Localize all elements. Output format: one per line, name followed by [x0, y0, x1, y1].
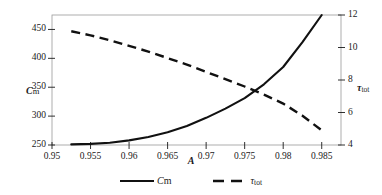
x-axis-tick-label: 0.98: [275, 152, 292, 162]
right-axis-tick-label: 6: [348, 108, 353, 118]
series-line-tau-tot: [71, 31, 321, 130]
left-axis-tick-label: 400: [18, 54, 46, 64]
legend-swatch-dashed: [213, 176, 247, 186]
right-axis-ticks: [338, 15, 345, 145]
legend-label-tau-tot: τtot: [250, 176, 262, 186]
x-axis-title: A: [188, 156, 195, 166]
x-axis-tick-label: 0.96: [121, 152, 138, 162]
x-axis-tick-label: 0.965: [157, 152, 178, 162]
x-axis-tick-label: 0.97: [198, 152, 215, 162]
right-axis-title-subscript: tot: [361, 85, 369, 94]
right-axis-tick-label: 8: [348, 75, 353, 85]
left-axis-title: Cm: [26, 86, 39, 96]
chart-legend: Cm τtot: [0, 168, 382, 194]
left-axis-tick-label: 250: [18, 140, 46, 150]
series-line-cm: [71, 15, 321, 144]
left-axis-title-subscript: m: [33, 86, 40, 96]
left-axis-tick-label: 300: [18, 111, 46, 121]
legend-label-tau-subscript: tot: [254, 178, 262, 187]
legend-item-tau-tot: τtot: [213, 176, 262, 186]
left-axis-title-symbol: C: [26, 85, 33, 96]
plot-frame: [52, 15, 341, 145]
right-axis-title: τtot: [357, 83, 369, 93]
right-axis-tick-label: 4: [348, 140, 353, 150]
legend-label-cm-symbol: C: [157, 175, 164, 186]
legend-swatch-solid: [120, 176, 154, 186]
x-axis-tick-label: 0.95: [44, 152, 61, 162]
right-axis-tick-label: 12: [348, 10, 358, 20]
x-axis-tick-label: 0.975: [234, 152, 255, 162]
right-axis-tick-label: 10: [348, 43, 358, 53]
left-axis-tick-label: 450: [18, 25, 46, 35]
x-axis-tick-label: 0.985: [311, 152, 332, 162]
legend-label-cm-subscript: m: [164, 175, 172, 186]
chart-figure: 250300350400450 4681012 0.950.9550.960.9…: [0, 0, 382, 195]
x-axis-tick-label: 0.955: [80, 152, 101, 162]
legend-label-cm: Cm: [157, 176, 171, 186]
x-axis-title-symbol: A: [188, 155, 195, 166]
legend-item-cm: Cm: [120, 176, 171, 186]
left-axis-ticks: [48, 29, 55, 145]
